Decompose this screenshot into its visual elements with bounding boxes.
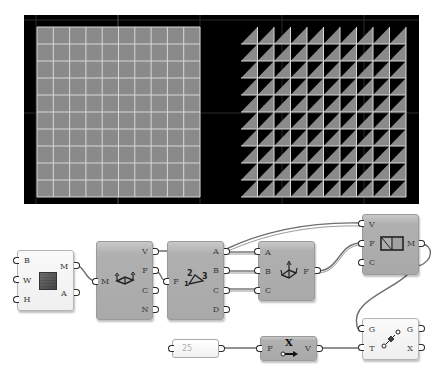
input-b-label: B bbox=[22, 256, 32, 266]
deconstruct-face-output-b-grip[interactable] bbox=[224, 267, 230, 274]
construct-mesh-input-v-grip[interactable] bbox=[358, 220, 364, 227]
unit-x-input-f-grip[interactable] bbox=[256, 345, 262, 352]
mesh-plane-output-m-grip[interactable] bbox=[74, 262, 80, 269]
construct-mesh-output-m-grip[interactable] bbox=[419, 240, 425, 247]
input-f-label: F bbox=[367, 239, 377, 249]
mesh-plane-output-a-grip[interactable] bbox=[74, 289, 80, 296]
construct-face-input-c-grip[interactable] bbox=[254, 287, 260, 294]
deconstruct-face-output-d-grip[interactable] bbox=[224, 306, 230, 313]
construct-face-input-b-grip[interactable] bbox=[254, 267, 260, 274]
input-a-label: A bbox=[263, 248, 273, 258]
construct-mesh-input-c-grip[interactable] bbox=[358, 259, 364, 266]
number-panel-value[interactable]: 25 bbox=[182, 344, 192, 353]
deconstruct-mesh-output-v-grip[interactable] bbox=[153, 248, 159, 255]
deconstruct-mesh-input-m-grip[interactable] bbox=[92, 278, 98, 285]
construct-face-component[interactable]: A B C F bbox=[258, 241, 315, 301]
output-a-label: A bbox=[59, 289, 69, 299]
deconstruct-mesh-output-n-grip[interactable] bbox=[153, 306, 159, 313]
output-c-label: C bbox=[211, 286, 221, 296]
deconstruct-mesh-component[interactable]: M V F C N bbox=[96, 241, 153, 320]
number-panel[interactable]: 25 bbox=[172, 339, 219, 358]
input-f-label: F bbox=[265, 344, 275, 354]
mesh-plane-input-b-grip[interactable] bbox=[13, 257, 19, 264]
input-w-label: W bbox=[22, 276, 32, 286]
deconstruct-mesh-output-c-grip[interactable] bbox=[153, 287, 159, 294]
output-g-label: G bbox=[405, 325, 415, 335]
unit-x-icon: X bbox=[280, 338, 300, 360]
construct-mesh-icon bbox=[380, 236, 404, 251]
deconstruct-face-icon: 2 3 1 bbox=[183, 269, 209, 289]
input-v-label: V bbox=[367, 220, 377, 230]
input-b-label: B bbox=[263, 267, 273, 277]
mesh-plane-component[interactable]: B W H M A bbox=[17, 250, 74, 311]
number-panel-input-grip[interactable] bbox=[168, 345, 174, 352]
input-c-label: C bbox=[367, 258, 377, 268]
output-m-label: M bbox=[59, 262, 69, 272]
construct-face-input-a-grip[interactable] bbox=[254, 248, 260, 255]
output-f-label: F bbox=[301, 267, 311, 277]
mesh-plane-input-h-grip[interactable] bbox=[13, 296, 19, 303]
move-icon bbox=[380, 328, 402, 350]
output-c-label: C bbox=[140, 286, 150, 296]
output-a-label: A bbox=[211, 247, 221, 257]
construct-face-output-f-grip[interactable] bbox=[315, 267, 321, 274]
input-f-label: F bbox=[171, 277, 181, 287]
viewport-geometry bbox=[24, 15, 419, 204]
unit-x-component[interactable]: F V X bbox=[260, 336, 317, 361]
input-h-label: H bbox=[22, 295, 32, 305]
output-f-label: F bbox=[140, 266, 150, 276]
output-x-label: X bbox=[405, 344, 415, 354]
move-input-t-grip[interactable] bbox=[358, 344, 364, 351]
mesh-plane-input-w-grip[interactable] bbox=[13, 276, 19, 283]
deconstruct-face-input-f-grip[interactable] bbox=[163, 278, 169, 285]
construct-mesh-component[interactable]: V F C M bbox=[362, 214, 419, 275]
move-output-g-grip[interactable] bbox=[419, 325, 425, 332]
input-t-label: T bbox=[367, 344, 377, 354]
output-d-label: D bbox=[211, 305, 221, 315]
left-quad-mesh bbox=[37, 27, 200, 197]
output-v-label: V bbox=[303, 344, 313, 354]
output-n-label: N bbox=[140, 305, 150, 315]
output-b-label: B bbox=[211, 266, 221, 276]
input-g-label: G bbox=[367, 325, 377, 335]
output-v-label: V bbox=[140, 247, 150, 257]
deconstruct-face-output-a-grip[interactable] bbox=[224, 248, 230, 255]
output-m-label: M bbox=[406, 239, 416, 249]
move-output-x-grip[interactable] bbox=[419, 344, 425, 351]
right-triangle-mesh bbox=[241, 27, 406, 197]
move-input-g-grip[interactable] bbox=[358, 325, 364, 332]
deconstruct-face-component[interactable]: F A B C D 2 3 1 bbox=[167, 241, 224, 320]
mesh-plane-icon bbox=[39, 272, 57, 290]
construct-face-icon bbox=[278, 259, 300, 281]
input-m-label: M bbox=[100, 277, 110, 287]
input-c-label: C bbox=[263, 286, 273, 296]
unit-x-output-v-grip[interactable] bbox=[317, 345, 323, 352]
deconstruct-face-output-c-grip[interactable] bbox=[224, 287, 230, 294]
move-component[interactable]: G T G X bbox=[362, 318, 419, 360]
construct-mesh-input-f-grip[interactable] bbox=[358, 240, 364, 247]
rhino-viewport[interactable] bbox=[24, 15, 419, 204]
number-panel-output-grip[interactable] bbox=[219, 345, 225, 352]
wire-cface-f bbox=[317, 243, 361, 271]
deconstruct-mesh-icon bbox=[114, 271, 136, 289]
deconstruct-mesh-output-f-grip[interactable] bbox=[153, 267, 159, 274]
